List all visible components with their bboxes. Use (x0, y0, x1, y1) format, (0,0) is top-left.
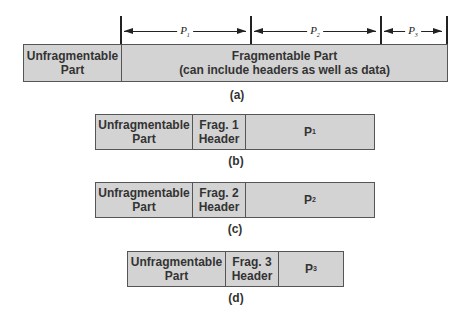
payload-subscript: 2 (312, 193, 316, 207)
arrow-left-icon (384, 28, 393, 34)
caption-d: (d) (228, 291, 243, 305)
unfrag-label-line2: Part (61, 63, 84, 77)
original-packet: Unfragmentable Part Fragmentable Part (c… (23, 44, 448, 82)
unfrag-label-line1: Unfragmentable (98, 118, 189, 132)
unfrag-label-line1: Unfragmentable (98, 186, 189, 200)
frag-label-line2: (can include headers as well as data) (179, 63, 390, 77)
unfragmentable-part: Unfragmentable Part (96, 115, 193, 149)
header-label-line1: Frag. 1 (199, 118, 238, 132)
payload-label: P (304, 125, 312, 139)
fragment-payload: P3 (279, 252, 343, 286)
frag-label-line1: Fragmentable Part (232, 49, 337, 63)
header-label-line1: Frag. 2 (199, 186, 238, 200)
payload-label: P (305, 262, 313, 276)
unfragmentable-part: Unfragmentable Part (24, 45, 122, 81)
fragment-2-packet: Unfragmentable Part Frag. 2 Header P2 (95, 182, 375, 218)
payload-subscript: 1 (312, 125, 316, 139)
unfrag-label-line2: Part (132, 200, 155, 214)
payload-subscript: 3 (313, 262, 317, 276)
unfragmentable-part: Unfragmentable Part (96, 183, 193, 217)
caption-c: (c) (228, 222, 243, 236)
fragmentable-part: Fragmentable Part (can include headers a… (122, 45, 447, 81)
arrow-left-icon (124, 28, 133, 34)
header-label-line2: Header (232, 269, 273, 283)
unfrag-label-line2: Part (132, 132, 155, 146)
arrow-right-icon (367, 28, 376, 34)
tick-1 (250, 16, 252, 44)
arrow-left-icon (254, 28, 263, 34)
header-label-line1: Frag. 3 (232, 255, 271, 269)
p2-dimension-label: P2 (307, 24, 323, 38)
header-label-line2: Header (199, 132, 240, 146)
payload-label: P (304, 193, 312, 207)
arrow-right-icon (237, 28, 246, 34)
unfragmentable-part: Unfragmentable Part (128, 252, 226, 286)
fragment-1-packet: Unfragmentable Part Frag. 1 Header P1 (95, 114, 375, 150)
arrow-right-icon (433, 28, 442, 34)
fragment-header: Frag. 3 Header (226, 252, 279, 286)
fragment-header: Frag. 1 Header (193, 115, 246, 149)
header-label-line2: Header (199, 200, 240, 214)
unfrag-label-line1: Unfragmentable (131, 255, 222, 269)
tick-2 (380, 16, 382, 44)
unfrag-label-line2: Part (165, 269, 188, 283)
p1-dimension-label: P1 (177, 24, 193, 38)
fragment-header: Frag. 2 Header (193, 183, 246, 217)
unfrag-label-line1: Unfragmentable (27, 49, 118, 63)
tick-3 (446, 16, 448, 44)
p3-dimension-label: P3 (405, 24, 421, 38)
fragment-payload: P1 (246, 115, 374, 149)
caption-a: (a) (230, 88, 245, 102)
fragment-payload: P2 (246, 183, 374, 217)
caption-b: (b) (228, 154, 243, 168)
fragment-3-packet: Unfragmentable Part Frag. 3 Header P3 (127, 251, 344, 287)
tick-0 (120, 16, 122, 44)
